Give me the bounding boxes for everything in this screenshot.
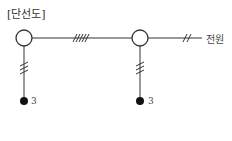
single-line-diagram — [0, 0, 232, 141]
bus-right-circle-icon — [132, 30, 148, 46]
load-right-label: 3 — [148, 96, 154, 106]
ticks-3-right-icon — [136, 62, 144, 74]
source-label: 전원 — [206, 31, 224, 46]
ticks-5-icon — [73, 34, 89, 42]
bus-left-circle-icon — [16, 30, 32, 46]
load-left-label: 3 — [31, 96, 37, 106]
ticks-3-left-icon — [20, 62, 28, 74]
load-left-dot-icon — [20, 97, 28, 105]
load-right-dot-icon — [136, 97, 144, 105]
